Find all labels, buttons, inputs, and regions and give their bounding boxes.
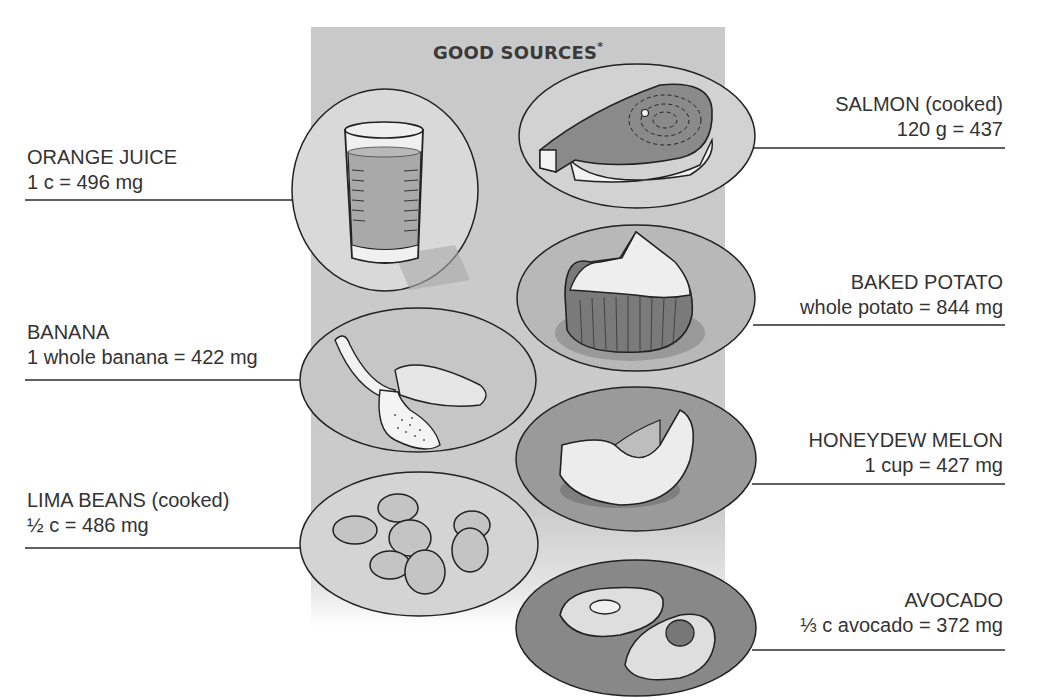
potassium-amount: 1 c = 496 mg	[27, 170, 177, 195]
food-name: AVOCADO	[800, 588, 1003, 613]
baked-potato-icon	[517, 225, 755, 371]
lima-beans-icon	[300, 472, 538, 616]
label-honeydew: HONEYDEW MELON 1 cup = 427 mg	[809, 428, 1003, 478]
food-name: LIMA BEANS (cooked)	[27, 488, 229, 513]
food-name: ORANGE JUICE	[27, 145, 177, 170]
salmon-steak-icon	[519, 64, 755, 208]
potassium-amount: whole potato = 844 mg	[800, 295, 1003, 320]
label-orange-juice: ORANGE JUICE 1 c = 496 mg	[27, 145, 177, 195]
label-baked-potato: BAKED POTATO whole potato = 844 mg	[800, 270, 1003, 320]
label-banana: BANANA 1 whole banana = 422 mg	[27, 320, 258, 370]
avocado-halves-icon	[516, 560, 756, 696]
glass-of-juice-icon	[292, 89, 478, 291]
food-name: HONEYDEW MELON	[809, 428, 1003, 453]
food-name: BANANA	[27, 320, 258, 345]
label-lima-beans: LIMA BEANS (cooked) ½ c = 486 mg	[27, 488, 229, 538]
food-name: SALMON (cooked)	[835, 92, 1003, 117]
potassium-amount: 1 cup = 427 mg	[809, 453, 1003, 478]
melon-slice-icon	[516, 387, 756, 531]
potassium-amount: ⅓ c avocado = 372 mg	[800, 613, 1003, 638]
food-name: BAKED POTATO	[800, 270, 1003, 295]
potassium-amount: 120 g = 437	[835, 117, 1003, 142]
label-salmon: SALMON (cooked) 120 g = 437	[835, 92, 1003, 142]
peeled-banana-icon	[300, 308, 536, 452]
potassium-amount: 1 whole banana = 422 mg	[27, 345, 258, 370]
label-avocado: AVOCADO ⅓ c avocado = 372 mg	[800, 588, 1003, 638]
potassium-amount: ½ c = 486 mg	[27, 513, 229, 538]
